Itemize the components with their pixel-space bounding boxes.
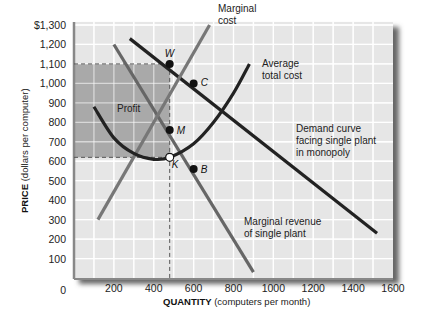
svg-text:400: 400 xyxy=(48,194,66,206)
y-tick-labels: 1002003004005006007008009001,0001,1001,2… xyxy=(34,19,66,296)
y-axis-title: PRICE (dollars per computer) xyxy=(19,88,30,213)
profit-label: Profit xyxy=(117,103,141,114)
svg-text:800: 800 xyxy=(225,282,243,294)
svg-text:$1,300: $1,300 xyxy=(34,19,66,31)
svg-text:QUANTITY (computers per month): QUANTITY (computers per month) xyxy=(163,296,310,307)
point-b xyxy=(190,165,198,173)
svg-text:1,100: 1,100 xyxy=(40,58,66,70)
svg-text:200: 200 xyxy=(48,233,66,245)
svg-text:1600: 1600 xyxy=(381,282,405,294)
svg-text:PRICE (dollars per computer): PRICE (dollars per computer) xyxy=(19,88,30,213)
point-label-m: M xyxy=(177,125,186,136)
svg-text:1,000: 1,000 xyxy=(40,77,66,89)
svg-text:Demand curve: Demand curve xyxy=(296,123,361,134)
point-label-b: B xyxy=(201,164,208,175)
svg-text:200: 200 xyxy=(105,282,123,294)
svg-text:0: 0 xyxy=(60,284,66,296)
point-w xyxy=(166,60,174,68)
point-label-w: W xyxy=(165,48,176,59)
svg-text:700: 700 xyxy=(48,136,66,148)
svg-text:500: 500 xyxy=(48,175,66,187)
svg-text:800: 800 xyxy=(48,116,66,128)
svg-text:of single plant: of single plant xyxy=(244,228,306,239)
monopoly-chart: WCMKB 1002003004005006007008009001,0001,… xyxy=(0,0,424,321)
svg-text:cost: cost xyxy=(218,15,237,26)
svg-text:1,200: 1,200 xyxy=(40,38,66,50)
x-axis-title: QUANTITY (computers per month) xyxy=(163,296,310,307)
svg-text:1200: 1200 xyxy=(302,282,326,294)
svg-text:100: 100 xyxy=(48,253,66,265)
svg-text:900: 900 xyxy=(48,97,66,109)
point-label-c: C xyxy=(201,77,209,88)
svg-text:in monopoly: in monopoly xyxy=(296,147,350,158)
svg-text:Marginal revenue: Marginal revenue xyxy=(244,216,322,227)
svg-text:total cost: total cost xyxy=(262,70,302,81)
svg-text:300: 300 xyxy=(48,214,66,226)
average-total-cost-label: Average total cost xyxy=(262,58,302,81)
point-m xyxy=(166,126,174,134)
svg-text:600: 600 xyxy=(48,155,66,167)
svg-text:600: 600 xyxy=(185,282,203,294)
point-c xyxy=(190,79,198,87)
svg-text:facing single plant: facing single plant xyxy=(296,135,376,146)
svg-text:400: 400 xyxy=(145,282,163,294)
svg-text:1000: 1000 xyxy=(262,282,286,294)
svg-text:Marginal: Marginal xyxy=(218,3,256,14)
svg-text:Average: Average xyxy=(262,58,300,69)
svg-text:1400: 1400 xyxy=(341,282,365,294)
